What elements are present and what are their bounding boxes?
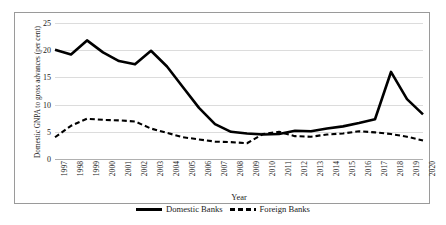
legend-label-foreign-banks: Foreign Banks [260, 204, 310, 214]
x-axis-tick-label: 2006 [204, 161, 213, 193]
x-axis-tick-label: 2004 [172, 161, 181, 193]
x-axis-tick-label: 2003 [156, 161, 165, 193]
x-axis-tick-label: 2007 [220, 161, 229, 193]
x-axis-tick-label: 2005 [188, 161, 197, 193]
x-axis-tick-label: 2015 [348, 161, 357, 193]
legend-label-domestic-banks: Domestic Banks [166, 204, 223, 214]
x-axis-tick-label: 2016 [364, 161, 373, 193]
chart-figure: Domestic GNPA to gross advances (per cen… [14, 12, 430, 204]
x-axis-tick-label: 2020 [428, 161, 437, 193]
x-axis-tick-label: 2001 [124, 161, 133, 193]
y-axis-tick-label: 0 [47, 155, 51, 164]
y-axis-tick-label: 5 [47, 127, 51, 136]
legend-item-domestic-banks: Domestic Banks [136, 204, 223, 214]
x-axis-tick-label: 2012 [300, 161, 309, 193]
y-axis-tick-label: 25 [43, 19, 51, 28]
chart-legend: Domestic Banks Foreign Banks [15, 204, 431, 214]
x-axis-tick-label: 2000 [108, 161, 117, 193]
x-axis-tick-label: 2017 [380, 161, 389, 193]
y-axis-tick-label: 15 [43, 73, 51, 82]
x-axis-tick-label: 2010 [268, 161, 277, 193]
gridline [55, 159, 423, 160]
y-axis-title: Domestic GNPA to gross advances (per cen… [31, 16, 45, 168]
x-axis-tick-label: 2011 [284, 161, 293, 193]
x-axis-title: Year [55, 193, 423, 202]
x-axis-tick-label: 2018 [396, 161, 405, 193]
x-axis-tick-label: 2002 [140, 161, 149, 193]
series-line-foreign-banks [55, 119, 423, 143]
x-axis-tick-label: 2013 [316, 161, 325, 193]
plot-area: 0510152025 [55, 23, 423, 159]
legend-swatch-dashed-icon [230, 208, 256, 211]
x-axis-tick-label: 1998 [76, 161, 85, 193]
legend-item-foreign-banks: Foreign Banks [230, 204, 310, 214]
y-axis-tick-label: 10 [43, 100, 51, 109]
x-axis-tick-label: 2009 [252, 161, 261, 193]
x-axis-tick-label: 2019 [412, 161, 421, 193]
x-axis-tick-label: 2014 [332, 161, 341, 193]
x-axis-tick-label: 1999 [92, 161, 101, 193]
x-axis-tick-labels: 1997199819992000200120022003200420052006… [55, 161, 423, 193]
y-axis-tick-label: 20 [43, 46, 51, 55]
series-lines [55, 23, 423, 159]
x-axis-tick-label: 2008 [236, 161, 245, 193]
legend-swatch-solid-icon [136, 208, 162, 211]
x-axis-tick-label: 1997 [60, 161, 69, 193]
